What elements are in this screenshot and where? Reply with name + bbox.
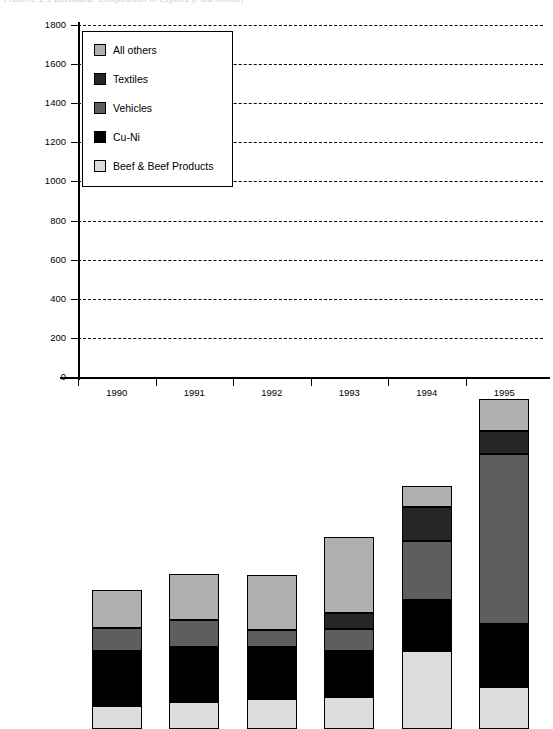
x-tick-1993 (311, 377, 312, 386)
y-tick-label-1800: 1800 (0, 20, 66, 30)
y-tick-label-1200: 1200 (0, 137, 66, 147)
legend-label: All others (113, 43, 157, 57)
bar-segment-1995-all-others[interactable] (479, 399, 529, 430)
x-tick-label-1993: 1993 (314, 388, 384, 398)
figure-title-clipped: FIGURE 2.1 Botswana: Composition of Expo… (0, 0, 553, 12)
bar-segment-1994-textiles[interactable] (402, 507, 452, 541)
bar-segment-1991-cu-ni[interactable] (169, 647, 219, 702)
bar-segment-1992-beef-beef-products[interactable] (247, 699, 297, 729)
x-tick-1992 (233, 377, 234, 386)
bar-segment-1994-all-others[interactable] (402, 486, 452, 508)
x-tick-label-1990: 1990 (82, 388, 152, 398)
x-axis-line (60, 377, 550, 379)
bar-segment-1993-textiles[interactable] (324, 613, 374, 630)
bar-segment-1990-cu-ni[interactable] (92, 651, 142, 706)
y-tick-label-1600: 1600 (0, 59, 66, 69)
bar-segment-1995-beef-beef-products[interactable] (479, 687, 529, 729)
legend-swatch-icon (94, 131, 106, 143)
bar-segment-1992-vehicles[interactable] (247, 630, 297, 647)
bar-segment-1995-cu-ni[interactable] (479, 624, 529, 687)
bar-segment-1995-vehicles[interactable] (479, 454, 529, 624)
y-tick-label-0: 0 (0, 372, 66, 382)
x-tick-1994 (388, 377, 389, 386)
legend: All othersTextilesVehiclesCu-NiBeef & Be… (82, 31, 233, 187)
bar-segment-1995-textiles[interactable] (479, 431, 529, 454)
y-tick-label-1400: 1400 (0, 98, 66, 108)
x-tick-label-1994: 1994 (392, 388, 462, 398)
x-tick-label-1992: 1992 (237, 388, 307, 398)
x-tick-1991 (156, 377, 157, 386)
bar-segment-1990-all-others[interactable] (92, 590, 142, 628)
bar-segment-1994-cu-ni[interactable] (402, 600, 452, 651)
legend-label: Textiles (113, 72, 148, 86)
y-tick-label-200: 200 (0, 333, 66, 343)
y-tick-label-1000: 1000 (0, 176, 66, 186)
bar-segment-1992-all-others[interactable] (247, 575, 297, 631)
legend-swatch-icon (94, 44, 106, 56)
x-tick-1995 (466, 377, 467, 386)
x-tick-1990 (78, 377, 79, 386)
bar-segment-1993-vehicles[interactable] (324, 629, 374, 651)
y-tick-label-400: 400 (0, 294, 66, 304)
bar-segment-1990-beef-beef-products[interactable] (92, 706, 142, 729)
legend-label: Vehicles (113, 101, 152, 115)
x-tick-label-1991: 1991 (159, 388, 229, 398)
legend-swatch-icon (94, 73, 106, 85)
bar-segment-1991-beef-beef-products[interactable] (169, 702, 219, 729)
bar-segment-1991-vehicles[interactable] (169, 620, 219, 646)
bar-segment-1994-vehicles[interactable] (402, 541, 452, 600)
y-tick-label-600: 600 (0, 255, 66, 265)
legend-swatch-icon (94, 102, 106, 114)
x-tick-label-1995: 1995 (469, 388, 539, 398)
y-tick-label-800: 800 (0, 216, 66, 226)
bar-segment-1990-vehicles[interactable] (92, 628, 142, 650)
y-axis-tick-labels: 020040060080010001200140016001800 (0, 0, 70, 414)
legend-swatch-icon (94, 160, 106, 172)
bar-segment-1994-beef-beef-products[interactable] (402, 651, 452, 729)
bar-segment-1993-all-others[interactable] (324, 537, 374, 612)
legend-label: Cu-Ni (113, 130, 140, 144)
bar-segment-1993-beef-beef-products[interactable] (324, 697, 374, 729)
bar-segment-1993-cu-ni[interactable] (324, 651, 374, 697)
legend-label: Beef & Beef Products (113, 159, 213, 173)
bar-segment-1992-cu-ni[interactable] (247, 647, 297, 699)
bar-segment-1991-all-others[interactable] (169, 574, 219, 621)
